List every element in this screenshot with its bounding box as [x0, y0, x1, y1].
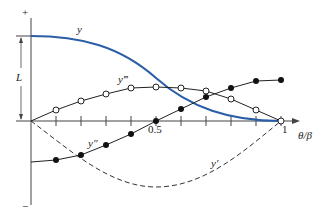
- dimension-label: L: [15, 71, 22, 83]
- tick-label-1: 1: [282, 123, 288, 135]
- y-triple-prime-markers: [53, 84, 284, 124]
- label-y: y: [76, 23, 82, 35]
- label-y-triple-prime: y‴: [117, 73, 129, 85]
- cam-motion-diagram: L + − 0.5 1 θ/β y y′ y″ y‴: [0, 0, 329, 216]
- axis-arrow-icon: [292, 118, 300, 124]
- label-y-double-prime: y″: [87, 137, 98, 149]
- y-plus-label: +: [22, 6, 28, 18]
- x-axis-label: θ/β: [298, 129, 312, 141]
- label-y-prime: y′: [210, 157, 219, 169]
- dimension-arrow-down-icon: [19, 114, 23, 120]
- y-minus-label: −: [22, 200, 28, 212]
- tick-label-0-5: 0.5: [148, 123, 162, 135]
- curve-y: [31, 36, 281, 121]
- curve-y-triple-prime: [31, 87, 281, 121]
- dimension-arrow-up-icon: [19, 37, 23, 43]
